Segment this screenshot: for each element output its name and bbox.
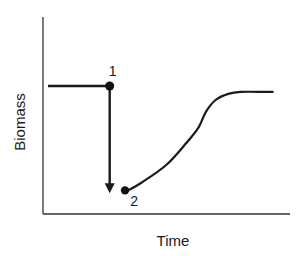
point-1-label: 1 [109, 63, 117, 79]
recovery-curve [125, 92, 273, 193]
x-axis-label: Time [157, 232, 190, 249]
biomass-time-chart: Time Biomass 12 [0, 0, 304, 256]
point-2-marker [121, 186, 129, 194]
y-axis-label: Biomass [11, 93, 28, 151]
disturbance-arrow-head [105, 183, 115, 193]
point-2-label: 2 [130, 193, 138, 209]
point-1-marker [105, 81, 114, 90]
